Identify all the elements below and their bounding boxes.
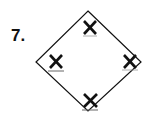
x-mark-left xyxy=(50,55,62,68)
x-mark-bottom xyxy=(84,94,97,107)
x-mark-top xyxy=(84,21,96,34)
diamond-diagram xyxy=(0,0,157,117)
x-mark-right xyxy=(124,55,136,68)
